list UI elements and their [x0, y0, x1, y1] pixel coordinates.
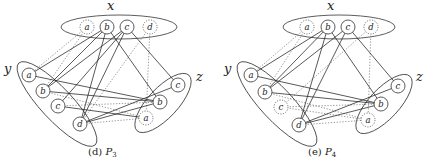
dotted-edge-yc-zb — [281, 104, 381, 107]
node-label: d — [77, 119, 83, 129]
node-label: d — [147, 22, 153, 32]
node-label: a — [84, 22, 89, 32]
node-yd: d — [292, 118, 306, 132]
node-ya: a — [244, 68, 258, 82]
node-label: b — [40, 86, 45, 96]
node-zb: b — [153, 95, 167, 109]
panel-caption: (d) P3 — [88, 146, 117, 159]
group-z-label: z — [195, 69, 203, 84]
node-xd: d — [364, 20, 378, 34]
node-label: a — [143, 113, 148, 123]
node-yb: b — [36, 84, 50, 98]
node-label: a — [304, 22, 309, 32]
node-label: a — [365, 115, 370, 125]
dotted-edge-xa-yb — [43, 27, 87, 91]
node-xb: b — [100, 20, 114, 34]
node-label: b — [325, 22, 330, 32]
group-x-label: x — [107, 0, 115, 13]
dotted-edge-yc-za — [281, 107, 368, 120]
solid-edge-yc-za — [58, 106, 146, 118]
node-label: b — [104, 22, 109, 32]
node-xa: a — [80, 20, 94, 34]
node-label: c — [176, 80, 181, 90]
node-za: a — [139, 111, 153, 125]
node-label: c — [346, 22, 351, 32]
node-zb: b — [374, 97, 388, 111]
node-xd: d — [143, 20, 157, 34]
node-label: a — [248, 70, 253, 80]
node-label: b — [262, 87, 267, 97]
dotted-edge-xa-ya — [29, 27, 87, 75]
solid-edge-xc-yc — [58, 27, 127, 106]
node-label: c — [56, 101, 61, 111]
solid-edge-xc-yd — [80, 27, 127, 124]
dotted-edge-xa-yb — [265, 27, 307, 92]
group-x-label: x — [327, 0, 335, 13]
node-xa: a — [300, 20, 314, 34]
node-za: a — [361, 113, 375, 127]
solid-edge-xb-ya — [251, 27, 328, 75]
panel-p3: xyzabcdabcdcba(d) P3 — [3, 0, 203, 159]
node-label: c — [279, 102, 284, 112]
dotted-edge-xd-za — [146, 27, 150, 118]
panel-p4: xyzabcdabcdcba(e) P4 — [223, 0, 423, 159]
group-x-ellipse — [61, 15, 177, 39]
node-label: c — [396, 81, 401, 91]
panel-caption: (e) P4 — [308, 146, 337, 159]
node-label: d — [296, 120, 302, 130]
diagram-canvas: xyzabcdabcdcba(d) P3xyzabcdabcdcba(e) P4 — [0, 0, 428, 160]
solid-edge-xc-zc — [127, 27, 178, 85]
group-z-label: z — [415, 69, 423, 84]
solid-edge-xc-zc — [348, 27, 398, 86]
node-label: d — [368, 22, 374, 32]
node-label: b — [378, 99, 383, 109]
node-zc: c — [391, 79, 405, 93]
node-zc: c — [171, 78, 185, 92]
dotted-edge-yc-zb — [58, 102, 160, 106]
node-xb: b — [321, 20, 335, 34]
node-xc: c — [341, 20, 355, 34]
dotted-edge-xa-ya — [251, 27, 307, 75]
node-ya: a — [22, 68, 36, 82]
node-label: b — [157, 97, 162, 107]
group-y-label: y — [223, 61, 232, 76]
node-yd: d — [73, 117, 87, 131]
node-label: a — [26, 70, 31, 80]
dotted-edge-xd-za — [368, 27, 371, 120]
node-yc: c — [51, 99, 65, 113]
node-label: c — [125, 22, 130, 32]
node-yc: c — [274, 100, 288, 114]
node-yb: b — [258, 85, 272, 99]
node-xc: c — [120, 20, 134, 34]
group-y-label: y — [3, 61, 12, 76]
